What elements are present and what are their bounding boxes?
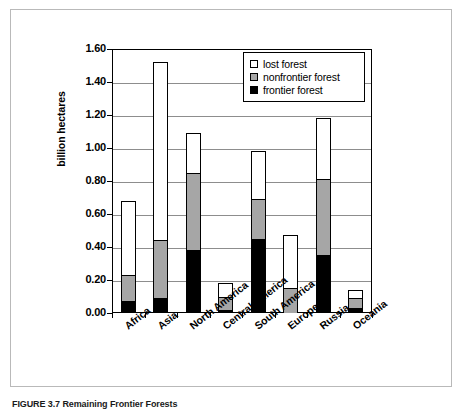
y-axis-tick-label: 1.60: [62, 42, 106, 54]
y-axis-tick-label: 1.00: [62, 141, 106, 153]
x-axis-tick-mark: [242, 313, 243, 318]
bar-segment[interactable]: [251, 151, 266, 199]
bar-segment[interactable]: [121, 201, 136, 275]
bar-segment[interactable]: [186, 250, 201, 313]
x-axis-tick-mark: [307, 313, 308, 318]
bar-segment[interactable]: [186, 133, 201, 173]
bar-segment[interactable]: [316, 118, 331, 179]
x-axis-tick-mark: [275, 313, 276, 318]
bar-segment[interactable]: [153, 298, 168, 313]
y-axis-title: billion hectares: [55, 49, 67, 209]
legend-swatch-icon: [250, 60, 258, 68]
x-axis-tick-mark: [372, 313, 373, 318]
y-axis-tick-label: 0.80: [62, 174, 106, 186]
legend-item[interactable]: frontier forest: [250, 83, 358, 96]
legend-swatch-icon: [250, 86, 258, 94]
bar-segment[interactable]: [186, 173, 201, 251]
x-axis-tick-mark: [210, 313, 211, 318]
legend-item[interactable]: lost forest: [250, 57, 358, 70]
bar-group[interactable]: [316, 118, 331, 313]
y-axis-tick-label: 0.00: [62, 306, 106, 318]
bar-segment[interactable]: [348, 298, 363, 308]
x-axis-tick-mark: [112, 313, 113, 318]
x-axis-tick-mark: [145, 313, 146, 318]
bar-segment[interactable]: [153, 240, 168, 298]
legend-label: frontier forest: [263, 84, 323, 96]
bar-segment[interactable]: [316, 255, 331, 313]
legend-label: lost forest: [263, 58, 307, 70]
bar-segment[interactable]: [251, 199, 266, 239]
bar-group[interactable]: [121, 201, 136, 313]
legend-item[interactable]: nonfrontier forest: [250, 70, 358, 83]
y-axis-tick-label: 0.60: [62, 207, 106, 219]
y-axis-tick-label: 1.40: [62, 75, 106, 87]
figure-caption: FIGURE 3.7 Remaining Frontier Forests: [12, 399, 177, 409]
y-axis-tick-label: 0.20: [62, 273, 106, 285]
bar-segment[interactable]: [153, 62, 168, 240]
bar-segment[interactable]: [316, 179, 331, 255]
x-axis-tick-mark: [340, 313, 341, 318]
bar-group[interactable]: [186, 133, 201, 313]
chart-legend: lost forestnonfrontier forestfrontier fo…: [243, 52, 365, 102]
bar-group[interactable]: [153, 62, 168, 313]
x-axis-tick-mark: [177, 313, 178, 318]
legend-label: nonfrontier forest: [263, 71, 340, 83]
y-axis-tick-label: 0.40: [62, 240, 106, 252]
y-axis-tick-label: 1.20: [62, 108, 106, 120]
bar-segment[interactable]: [121, 275, 136, 301]
forest-area-stacked-bar-chart: 1.601.401.201.000.800.600.400.200.00 bil…: [0, 0, 462, 412]
bar-segment[interactable]: [348, 290, 363, 298]
legend-swatch-icon: [250, 73, 258, 81]
